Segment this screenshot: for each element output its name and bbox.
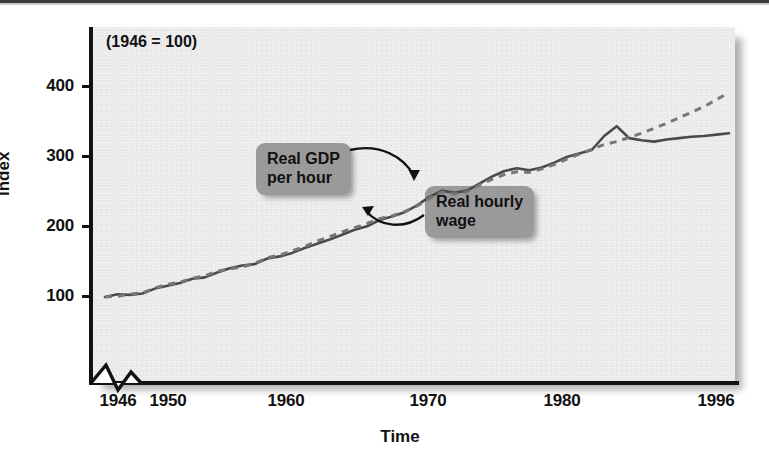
- arrow-gdp: [350, 148, 420, 181]
- series-line-real-gdp-per-hour: [105, 93, 729, 297]
- series-group: [105, 93, 729, 297]
- chart-figure: 400 300 200 100 Index (1946 = 100) 1946 …: [0, 0, 769, 469]
- series-overlay: [0, 0, 769, 469]
- series-line-real-hourly-wage: [105, 126, 729, 297]
- x-axis-break-icon: [91, 365, 141, 390]
